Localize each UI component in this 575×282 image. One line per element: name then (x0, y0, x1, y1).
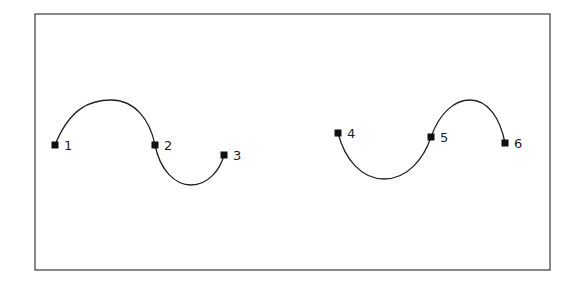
anchor-label-6: 6 (514, 136, 522, 151)
anchor-label-1: 1 (64, 138, 72, 153)
anchor-label-3: 3 (233, 148, 241, 163)
anchor-point-3[interactable] (221, 152, 228, 159)
anchor-point-4[interactable] (335, 130, 342, 137)
bezier-diagram: 123456 (0, 0, 575, 282)
anchor-point-2[interactable] (152, 142, 159, 149)
anchor-label-5: 5 (440, 130, 448, 145)
anchor-label-2: 2 (164, 138, 172, 153)
anchor-point-1[interactable] (52, 142, 59, 149)
anchor-point-5[interactable] (428, 134, 435, 141)
anchor-label-4: 4 (347, 126, 355, 141)
canvas-frame (35, 14, 550, 270)
anchor-point-6[interactable] (502, 140, 509, 147)
